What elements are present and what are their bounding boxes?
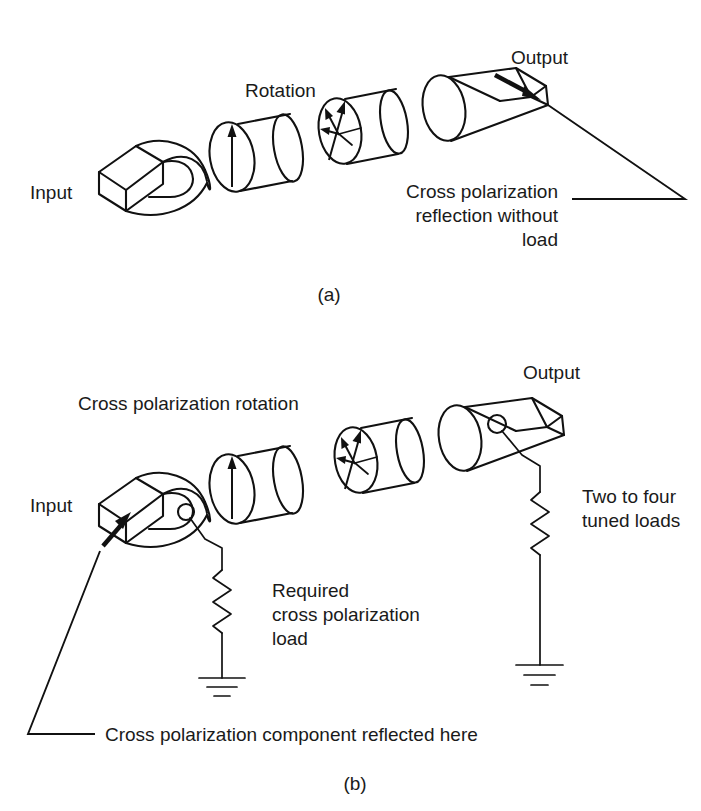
panel-b-tuned-loads-line2: tuned loads	[582, 510, 680, 531]
panel-a-output-transition	[418, 68, 548, 144]
panel-b-output-label: Output	[523, 362, 581, 383]
panel-a-rotation-section	[204, 112, 307, 195]
panel-a-input-label: Input	[30, 182, 73, 203]
panel-a-cross-pol-section	[314, 88, 413, 167]
panel-b-required-line1: Required	[272, 580, 349, 601]
panel-b-cross-pol-section	[330, 417, 429, 496]
panel-b-input-label: Input	[30, 495, 73, 516]
panel-b-required-line3: load	[272, 628, 308, 649]
panel-a-rotation-label: Rotation	[245, 80, 316, 101]
panel-b-caption: (b)	[343, 773, 366, 794]
panel-a-note-line2: reflection without	[415, 205, 558, 226]
panel-b: Input Cross polarization rotation Output…	[28, 362, 680, 794]
panel-b-input-port-circle	[178, 504, 194, 520]
panel-a-note-line1: Cross polarization	[406, 181, 558, 202]
panel-b-tuned-loads	[502, 431, 563, 685]
panel-b-bottom-note: Cross polarization component reflected h…	[105, 724, 478, 745]
panel-a-leader	[548, 105, 685, 199]
panel-b-output-transition	[434, 398, 564, 474]
panel-a: Input Rotation Output Cross polarization…	[30, 47, 685, 305]
panel-a-note-line3: load	[522, 229, 558, 250]
polarization-arrow-vertical	[228, 124, 237, 187]
waveguide-figure: Input Rotation Output Cross polarization…	[0, 0, 701, 811]
panel-b-polarization-arrow-vertical	[228, 456, 237, 519]
panel-b-rotation-section	[204, 444, 307, 527]
panel-a-input-transition	[99, 141, 210, 215]
panel-a-caption: (a)	[317, 284, 340, 305]
panel-b-cross-pol-load	[190, 518, 245, 696]
panel-a-output-label: Output	[511, 47, 569, 68]
panel-b-input-transition	[99, 473, 210, 547]
panel-b-cross-pol-rotation-label: Cross polarization rotation	[78, 393, 299, 414]
panel-b-bottom-leader	[28, 551, 100, 734]
figure-page: Input Rotation Output Cross polarization…	[0, 0, 701, 811]
panel-b-tuned-loads-line1: Two to four	[582, 486, 677, 507]
panel-b-required-line2: cross polarization	[272, 604, 420, 625]
